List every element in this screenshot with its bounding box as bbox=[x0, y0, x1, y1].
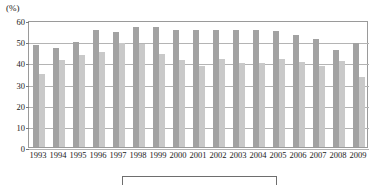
bar-group bbox=[49, 22, 69, 147]
bar bbox=[259, 63, 265, 147]
bar bbox=[333, 50, 339, 147]
bar-group bbox=[289, 22, 309, 147]
bar-group bbox=[89, 22, 109, 147]
bar-group bbox=[149, 22, 169, 147]
x-axis-tick-label: 2004 bbox=[250, 150, 267, 160]
bar bbox=[293, 35, 299, 147]
x-axis-tick-label: 2005 bbox=[270, 150, 287, 160]
x-axis-labels: 1993199419951996199719981999200020012002… bbox=[28, 150, 368, 164]
bar bbox=[139, 44, 145, 147]
bar-group bbox=[69, 22, 89, 147]
bar-group bbox=[109, 22, 129, 147]
bar-group bbox=[229, 22, 249, 147]
legend-box bbox=[122, 176, 277, 185]
bar bbox=[79, 55, 85, 147]
bar bbox=[73, 42, 79, 147]
bar-group bbox=[129, 22, 149, 147]
bar bbox=[233, 30, 239, 147]
y-axis-tick-label: 0 bbox=[3, 144, 25, 154]
y-axis-unit-label: (%) bbox=[6, 3, 20, 13]
bar-group bbox=[309, 22, 329, 147]
x-axis-tick-label: 2003 bbox=[230, 150, 247, 160]
bar bbox=[193, 30, 199, 147]
x-axis-tick-label: 1996 bbox=[90, 150, 107, 160]
y-axis-tick-label: 60 bbox=[3, 17, 25, 27]
bar bbox=[179, 60, 185, 147]
bar bbox=[219, 59, 225, 147]
bar-group bbox=[269, 22, 289, 147]
bar bbox=[213, 30, 219, 147]
bar bbox=[339, 61, 345, 147]
bar bbox=[273, 31, 279, 147]
bar bbox=[53, 48, 59, 147]
bar-group bbox=[29, 22, 49, 147]
plot-area: 0102030405060 bbox=[28, 21, 368, 148]
bar bbox=[119, 43, 125, 147]
bar bbox=[239, 63, 245, 147]
x-axis-tick-label: 1993 bbox=[30, 150, 47, 160]
y-axis-tick-label: 30 bbox=[3, 81, 25, 91]
y-axis-tick-label: 40 bbox=[3, 59, 25, 69]
bar-group bbox=[209, 22, 229, 147]
bar bbox=[159, 54, 165, 147]
x-axis-tick-label: 1994 bbox=[50, 150, 67, 160]
bar-group bbox=[169, 22, 189, 147]
x-axis-tick-label: 2000 bbox=[170, 150, 187, 160]
bar bbox=[59, 60, 65, 147]
x-axis-tick-label: 1999 bbox=[150, 150, 167, 160]
bar bbox=[279, 59, 285, 147]
x-axis-tick-label: 1997 bbox=[110, 150, 127, 160]
x-axis-tick-label: 2001 bbox=[190, 150, 207, 160]
x-axis-tick-label: 2007 bbox=[310, 150, 327, 160]
x-axis-tick-label: 2002 bbox=[210, 150, 227, 160]
bar-chart: (%) 0102030405060 1993199419951996199719… bbox=[0, 0, 377, 185]
bar bbox=[39, 74, 45, 147]
bar bbox=[33, 45, 39, 147]
bar bbox=[99, 52, 105, 147]
bar bbox=[299, 62, 305, 147]
bar bbox=[93, 30, 99, 147]
bar-series-container bbox=[29, 22, 367, 147]
bar bbox=[113, 32, 119, 147]
x-axis-tick-label: 1998 bbox=[130, 150, 147, 160]
bar bbox=[313, 39, 319, 147]
bar bbox=[133, 27, 139, 147]
y-axis-tick-label: 10 bbox=[3, 123, 25, 133]
bar bbox=[199, 66, 205, 147]
bar-group bbox=[249, 22, 269, 147]
bar bbox=[253, 30, 259, 147]
bar bbox=[319, 66, 325, 147]
bar-group bbox=[189, 22, 209, 147]
bar-group bbox=[349, 22, 369, 147]
bar-group bbox=[329, 22, 349, 147]
bar bbox=[173, 30, 179, 147]
x-axis-tick-label: 2009 bbox=[350, 150, 367, 160]
bar bbox=[153, 27, 159, 147]
y-axis-tick-label: 20 bbox=[3, 102, 25, 112]
x-axis-tick-label: 1995 bbox=[70, 150, 87, 160]
bar bbox=[353, 43, 359, 147]
bar bbox=[359, 77, 365, 147]
y-axis-tick-label: 50 bbox=[3, 38, 25, 48]
x-axis-tick-label: 2006 bbox=[290, 150, 307, 160]
x-axis-tick-label: 2008 bbox=[330, 150, 347, 160]
